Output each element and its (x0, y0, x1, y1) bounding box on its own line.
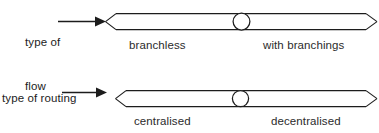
pointer-arrow-icon-row1 (58, 17, 106, 27)
endpoint-label-branchless: branchless (129, 38, 186, 52)
endpoint-label-decentralised: decentralised (271, 114, 341, 128)
row-label-type-of-routing-decisions-evaluation: type of routing decisions evaluation (2, 62, 76, 133)
scale-marker-circle-row1 (233, 13, 250, 30)
endpoint-label-with-branchings: with branchings (263, 38, 344, 52)
row-label-line: type of routing (2, 91, 76, 106)
row-label-line: type of (25, 35, 60, 50)
scale-marker-circle-row2 (232, 91, 248, 107)
diagram-canvas: type of flow branchless with branchings … (0, 0, 379, 133)
endpoint-label-centralised: centralised (134, 114, 191, 128)
